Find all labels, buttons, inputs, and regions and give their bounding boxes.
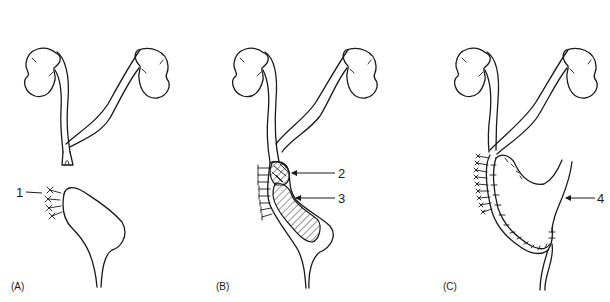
left-kidney — [25, 48, 61, 96]
left-ureter — [57, 52, 70, 152]
suture-marks — [45, 187, 62, 219]
panel-b-label: (B) — [216, 281, 229, 292]
right-ureter — [70, 68, 139, 147]
panel-a-label: (A) — [11, 281, 24, 292]
right-kidney — [563, 49, 597, 99]
callout-4-label: 4 — [597, 191, 604, 206]
right-kidney — [343, 49, 377, 99]
panel-b: 2 3 (B) — [216, 48, 377, 292]
left-kidney — [455, 48, 491, 96]
right-ureter — [497, 68, 567, 154]
panel-a: 1 (A) — [11, 48, 169, 292]
panel-c: 4 (C) — [443, 48, 604, 292]
bladder-flap — [486, 155, 552, 254]
left-ureter — [265, 52, 279, 162]
right-kidney — [135, 49, 169, 99]
callout-3-label: 3 — [338, 191, 345, 206]
ureter-stump — [62, 152, 73, 165]
left-kidney — [233, 48, 269, 96]
callout-1-label: 1 — [16, 185, 23, 200]
callout-2-label: 2 — [338, 166, 345, 181]
right-ureter — [282, 68, 347, 152]
urinary-diagram-figure: 1 (A) 2 — [0, 0, 610, 302]
callout-1-line — [26, 192, 42, 193]
panel-c-label: (C) — [443, 281, 457, 292]
